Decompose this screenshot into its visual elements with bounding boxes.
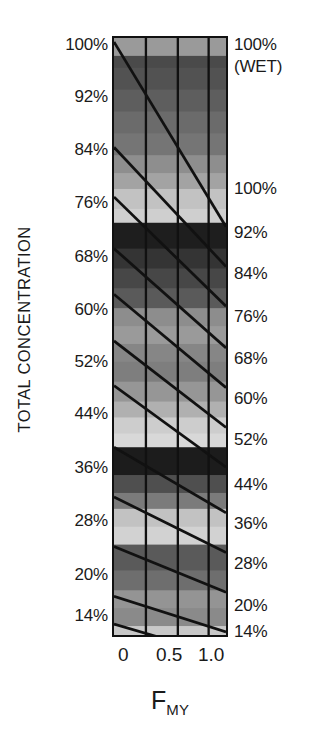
x-tick-labels: 00.51.0	[0, 645, 326, 671]
right-tick-label: 36%	[234, 515, 267, 532]
right-tick-label: (WET)	[234, 58, 282, 75]
right-tick-label: 76%	[234, 308, 267, 325]
figure-root: TOTAL CONCENTRATION 100%92%84%76%68%60%5…	[0, 0, 326, 742]
gridlines-and-contours	[114, 38, 226, 635]
left-tick-label: 100%	[65, 36, 108, 53]
x-axis-title: FMY	[112, 688, 228, 717]
right-tick-label: 100%	[234, 36, 277, 53]
y-axis-title: TOTAL CONCENTRATION	[15, 120, 34, 540]
left-tick-label: 44%	[75, 405, 108, 422]
x-axis-title-main: F	[151, 686, 166, 714]
left-tick-label: 20%	[75, 566, 108, 583]
right-tick-label: 68%	[234, 350, 267, 367]
right-tick-label: 14%	[234, 623, 267, 640]
right-tick-label: 92%	[234, 224, 267, 241]
left-tick-label: 60%	[75, 301, 108, 318]
left-tick-label: 14%	[75, 607, 108, 624]
plot-area	[112, 36, 228, 637]
right-tick-label: 20%	[234, 597, 267, 614]
left-tick-label: 84%	[75, 141, 108, 158]
left-tick-label: 92%	[75, 88, 108, 105]
x-tick-label: 1.0	[198, 645, 224, 664]
left-tick-label: 52%	[75, 353, 108, 370]
right-tick-label: 52%	[234, 431, 267, 448]
x-tick-label: 0	[118, 645, 129, 664]
left-tick-label: 36%	[75, 459, 108, 476]
right-tick-label: 84%	[234, 265, 267, 282]
right-tick-label: 28%	[234, 555, 267, 572]
right-tick-label: 100%	[234, 180, 277, 197]
x-tick-label: 0.5	[156, 645, 182, 664]
left-tick-label: 76%	[75, 194, 108, 211]
right-tick-label: 44%	[234, 476, 267, 493]
right-tick-label: 60%	[234, 390, 267, 407]
left-tick-label: 28%	[75, 512, 108, 529]
x-axis-title-subscript: MY	[166, 701, 189, 718]
left-tick-label: 68%	[75, 248, 108, 265]
